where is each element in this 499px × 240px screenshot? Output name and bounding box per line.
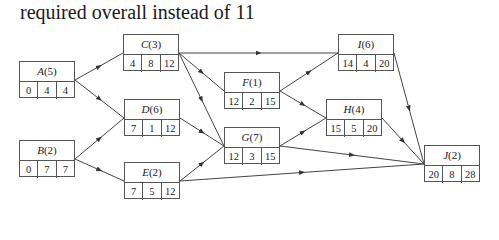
float: 8	[142, 55, 160, 72]
edge-c-f	[179, 53, 224, 91]
latest-finish: 15	[262, 93, 279, 110]
earliest-start: 4	[124, 55, 142, 72]
float: 7	[38, 161, 56, 178]
earliest-start: 12	[225, 148, 243, 165]
float: 5	[143, 183, 161, 200]
earliest-start: 14	[339, 55, 357, 72]
edge-g-j	[280, 146, 424, 164]
earliest-start: 0	[20, 161, 38, 178]
node-j: J(2) 20 8 28	[424, 145, 480, 182]
float: 4	[357, 55, 375, 72]
node-f: F(1) 12 2 15	[224, 72, 280, 109]
latest-finish: 12	[161, 55, 178, 72]
earliest-start: 0	[20, 82, 38, 99]
latest-finish: 12	[162, 183, 179, 200]
node-a: A(5) 0 4 4	[19, 61, 75, 98]
node-title: C(3)	[124, 35, 178, 55]
edge-g-h	[280, 118, 326, 146]
float: 5	[345, 120, 363, 137]
float: 1	[143, 120, 161, 137]
latest-finish: 20	[364, 120, 381, 137]
node-title: H(4)	[327, 100, 381, 120]
latest-finish: 20	[376, 55, 393, 72]
float: 8	[443, 166, 461, 183]
node-g: G(7) 12 3 15	[224, 127, 280, 164]
earliest-start: 15	[327, 120, 345, 137]
edge-f-h	[280, 91, 326, 118]
node-title: B(2)	[20, 141, 74, 161]
node-title: F(1)	[225, 73, 279, 93]
float: 4	[38, 82, 56, 99]
node-c: C(3) 4 8 12	[123, 34, 179, 71]
float: 2	[243, 93, 261, 110]
edge-f-i	[280, 53, 338, 91]
earliest-start: 7	[125, 183, 143, 200]
latest-finish: 7	[57, 161, 74, 178]
node-title: D(6)	[125, 100, 179, 120]
earliest-start: 20	[425, 166, 443, 183]
edge-b-e	[75, 159, 124, 181]
node-b: B(2) 0 7 7	[19, 140, 75, 177]
edge-e-j	[180, 164, 424, 181]
node-title: J(2)	[425, 146, 479, 166]
edge-e-g	[180, 146, 224, 181]
edge-a-c	[75, 53, 123, 80]
node-i: I(6) 14 4 20	[338, 34, 394, 71]
node-title: E(2)	[125, 163, 179, 183]
earliest-start: 7	[125, 120, 143, 137]
node-d: D(6) 7 1 12	[124, 99, 180, 136]
edge-a-d	[75, 80, 124, 118]
latest-finish: 4	[57, 82, 74, 99]
earliest-start: 12	[225, 93, 243, 110]
latest-finish: 12	[162, 120, 179, 137]
node-title: G(7)	[225, 128, 279, 148]
edge-b-d	[75, 118, 124, 159]
node-title: A(5)	[20, 62, 74, 82]
float: 3	[243, 148, 261, 165]
node-h: H(4) 15 5 20	[326, 99, 382, 136]
latest-finish: 28	[462, 166, 479, 183]
node-title: I(6)	[339, 35, 393, 55]
latest-finish: 15	[262, 148, 279, 165]
node-e: E(2) 7 5 12	[124, 162, 180, 199]
